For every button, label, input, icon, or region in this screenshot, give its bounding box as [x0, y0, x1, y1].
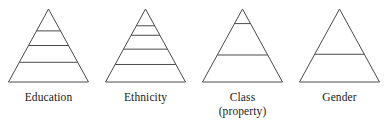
pyramid-label-ethnicity: Ethnicity [97, 90, 194, 104]
pyramid-label-class-property-line1: Class [230, 91, 255, 103]
pyramid-label-ethnicity-line1: Ethnicity [124, 91, 167, 103]
pyramid-class-property-svg [194, 6, 291, 86]
pyramid-ethnicity [97, 6, 194, 86]
pyramid-outline [203, 9, 283, 82]
pyramid-ethnicity-svg [97, 6, 194, 86]
pyramid-education [0, 6, 97, 86]
pyramid-group-education: Education [0, 0, 97, 127]
stratification-pyramids-figure: Education Ethnicity Class (property) Gen… [0, 0, 390, 127]
pyramid-gender-svg [291, 6, 388, 86]
pyramid-group-gender: Gender [291, 0, 388, 127]
pyramid-label-gender-line1: Gender [322, 91, 356, 103]
pyramid-education-svg [0, 6, 97, 86]
pyramid-outline [300, 9, 380, 82]
pyramid-gender [291, 6, 388, 86]
pyramid-label-gender: Gender [291, 90, 388, 104]
pyramid-label-class-property-line2: (property) [194, 104, 291, 118]
pyramid-group-class-property: Class (property) [194, 0, 291, 127]
pyramid-label-education-line1: Education [25, 91, 73, 103]
pyramid-label-education: Education [0, 90, 97, 104]
pyramid-class-property [194, 6, 291, 86]
pyramid-group-ethnicity: Ethnicity [97, 0, 194, 127]
pyramid-outline [106, 9, 186, 82]
pyramid-label-class-property: Class (property) [194, 90, 291, 118]
